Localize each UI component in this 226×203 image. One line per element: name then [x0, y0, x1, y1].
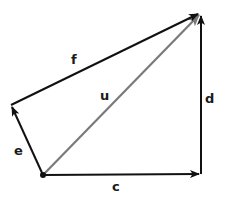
vector-diagram: f u d e c	[0, 0, 226, 203]
vector-e	[12, 107, 43, 175]
label-c: c	[112, 179, 120, 194]
label-e: e	[14, 143, 23, 158]
label-d: d	[205, 91, 214, 106]
origin-point	[40, 172, 46, 178]
label-f: f	[71, 52, 77, 67]
label-u: u	[100, 88, 109, 103]
vector-u	[43, 15, 199, 175]
vector-c	[43, 174, 199, 175]
